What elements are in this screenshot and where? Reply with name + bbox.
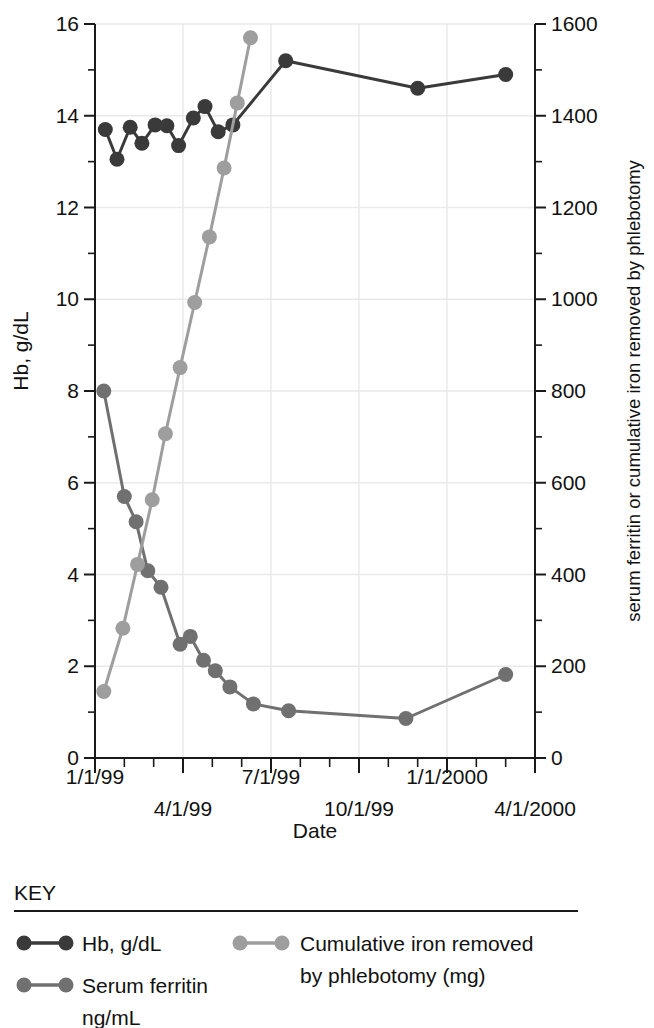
x-axis-tick-label: 10/1/99: [324, 797, 394, 820]
data-point: [398, 711, 413, 726]
y-axis-left-tick-label: 2: [67, 654, 79, 677]
data-point: [123, 120, 138, 135]
data-point: [134, 136, 149, 151]
data-point: [130, 557, 145, 572]
legend-label-line2: by phlebotomy (mg): [300, 964, 486, 987]
y-axis-right-tick-label: 1000: [551, 287, 598, 310]
data-point: [173, 360, 188, 375]
data-point: [183, 629, 198, 644]
legend-marker-dot: [17, 978, 32, 993]
data-point: [222, 679, 237, 694]
data-point: [278, 53, 293, 68]
y-axis-left-tick-label: 12: [56, 196, 79, 219]
data-point: [198, 99, 213, 114]
y-axis-right-tick-label: 0: [551, 746, 563, 769]
x-axis-tick-label: 1/1/99: [66, 765, 124, 788]
data-point: [281, 703, 296, 718]
y-axis-left-tick-label: 6: [67, 471, 79, 494]
legend-marker-dot: [275, 936, 290, 951]
y-axis-left-tick-label: 16: [56, 12, 79, 35]
x-axis-tick-label: 4/1/2000: [494, 797, 576, 820]
data-point: [187, 295, 202, 310]
data-point: [158, 426, 173, 441]
y-axis-right-tick-label: 600: [551, 471, 586, 494]
legend-label: Hb, g/dL: [82, 932, 161, 955]
data-point: [98, 122, 113, 137]
x-axis-title: Date: [293, 819, 337, 842]
y-axis-right-tick-label: 1400: [551, 104, 598, 127]
legend-title: KEY: [14, 881, 56, 904]
data-point: [243, 30, 258, 45]
legend-marker-dot: [17, 936, 32, 951]
y-axis-right-tick-label: 800: [551, 379, 586, 402]
data-point: [96, 684, 111, 699]
data-point: [211, 124, 226, 139]
data-point: [129, 514, 144, 529]
data-point: [186, 111, 201, 126]
data-point: [246, 696, 261, 711]
data-point: [145, 492, 160, 507]
legend-marker-dot: [59, 936, 74, 951]
data-point: [159, 118, 174, 133]
data-point: [154, 580, 169, 595]
legend-marker-dot: [59, 978, 74, 993]
y-axis-left-title: Hb, g/dL: [9, 311, 32, 390]
legend-label-line2: ng/mL: [82, 1006, 140, 1028]
y-axis-right-tick-label: 400: [551, 563, 586, 586]
y-axis-left-tick-label: 14: [56, 104, 80, 127]
legend-marker-dot: [233, 936, 248, 951]
line-chart: 0246810121416020040060080010001200140016…: [0, 0, 654, 1028]
y-axis-right-tick-label: 1200: [551, 196, 598, 219]
y-axis-right-tick-label: 200: [551, 654, 586, 677]
x-axis-tick-label: 4/1/99: [154, 797, 212, 820]
data-point: [498, 67, 513, 82]
data-point: [196, 653, 211, 668]
data-point: [110, 152, 125, 167]
y-axis-left-tick-label: 4: [67, 563, 79, 586]
chart-figure: 0246810121416020040060080010001200140016…: [0, 0, 654, 1028]
data-point: [115, 621, 130, 636]
x-axis-tick-label: 7/1/99: [242, 765, 300, 788]
x-axis-tick-label: 1/1/2000: [406, 765, 488, 788]
data-point: [217, 161, 232, 176]
legend-label: Cumulative iron removed: [300, 932, 533, 955]
y-axis-left-tick-label: 10: [56, 287, 79, 310]
data-point: [498, 667, 513, 682]
legend-label: Serum ferritin: [82, 974, 208, 997]
y-axis-right-title: serum ferritin or cumulative iron remove…: [623, 159, 644, 621]
data-point: [202, 229, 217, 244]
data-point: [171, 138, 186, 153]
data-point: [410, 81, 425, 96]
data-point: [230, 95, 245, 110]
y-axis-left-tick-label: 8: [67, 379, 79, 402]
y-axis-right-tick-label: 1600: [551, 12, 598, 35]
data-point: [117, 489, 132, 504]
data-point: [96, 384, 111, 399]
data-point: [208, 663, 223, 678]
chart-background: [0, 0, 654, 1028]
